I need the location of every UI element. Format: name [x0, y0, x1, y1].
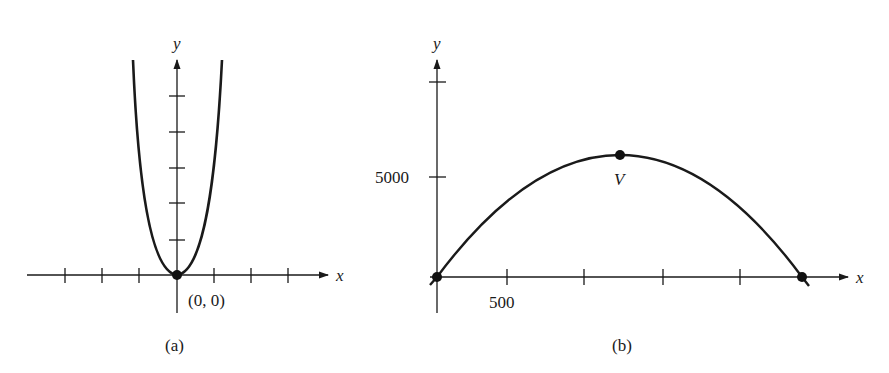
figure-canvas: [0, 0, 889, 373]
chart-a: [27, 60, 328, 313]
chart-b-x-label: x: [856, 269, 864, 286]
chart-b-origin-point: [432, 272, 442, 282]
chart-b-y-label: y: [433, 35, 441, 52]
chart-a-origin-label: (0, 0): [188, 292, 225, 309]
chart-b: [429, 60, 848, 313]
chart-b-vertex-label: V: [614, 171, 624, 188]
chart-b-caption: (b): [612, 337, 632, 354]
chart-a-x-label: x: [336, 267, 344, 284]
chart-b-root-point: [797, 272, 807, 282]
chart-a-y-label: y: [173, 35, 181, 52]
chart-b-vertex-point: [615, 150, 625, 160]
chart-b-ytick-label: 5000: [375, 169, 409, 186]
chart-b-xtick-label: 500: [489, 294, 515, 311]
chart-a-caption: (a): [165, 337, 184, 354]
chart-a-origin-point: [172, 270, 182, 280]
